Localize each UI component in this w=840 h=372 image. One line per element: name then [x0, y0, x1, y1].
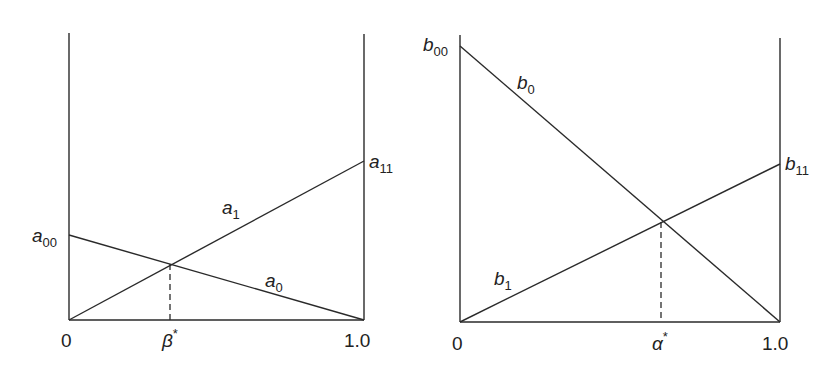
line-a0 — [69, 235, 364, 320]
left-panel: a00 a11 a1 a0 0 1.0 β* — [32, 33, 393, 351]
label-b0: b0 — [517, 72, 535, 97]
label-a11: a11 — [369, 151, 393, 176]
right-panel: b00 b11 b0 b1 0 1.0 α* — [423, 34, 809, 354]
diagram-canvas: a00 a11 a1 a0 0 1.0 β* b00 b11 b0 b1 0 1… — [0, 0, 840, 372]
left-tick-0: 0 — [61, 330, 72, 351]
left-tick-beta-star: β* — [161, 326, 178, 351]
left-tick-1: 1.0 — [344, 330, 370, 351]
line-b1 — [460, 164, 780, 322]
right-tick-0: 0 — [452, 333, 463, 354]
label-b00: b00 — [423, 34, 448, 59]
right-tick-alpha-star: α* — [652, 329, 668, 354]
label-a1: a1 — [222, 197, 240, 222]
label-a00: a00 — [32, 225, 57, 250]
line-a1 — [69, 161, 364, 320]
label-b11: b11 — [785, 153, 809, 178]
label-a0: a0 — [265, 270, 283, 295]
right-tick-1: 1.0 — [762, 333, 788, 354]
label-b1: b1 — [494, 268, 512, 293]
